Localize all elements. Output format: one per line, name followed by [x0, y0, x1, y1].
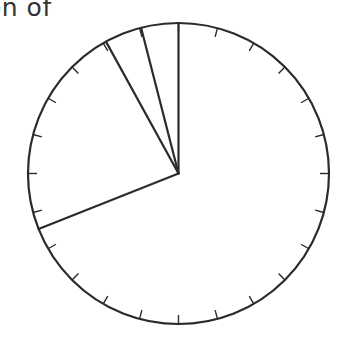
tick-mark — [140, 310, 142, 319]
slice-boundary — [39, 174, 179, 229]
tick-mark — [249, 296, 254, 304]
pie-chart — [0, 0, 340, 340]
tick-mark — [279, 274, 285, 280]
slice-boundary — [106, 42, 179, 174]
tick-mark — [72, 67, 78, 73]
pie-slices — [39, 23, 179, 229]
tick-mark — [72, 274, 78, 280]
tick-mark — [279, 67, 285, 73]
slice-boundary — [141, 28, 178, 174]
tick-mark — [315, 135, 324, 137]
tick-mark — [249, 43, 254, 51]
tick-mark — [33, 210, 42, 212]
tick-mark — [315, 210, 324, 212]
tick-mark — [215, 28, 217, 37]
tick-mark — [48, 98, 56, 103]
tick-mark — [301, 244, 309, 249]
tick-mark — [301, 98, 309, 103]
tick-mark — [33, 135, 42, 137]
tick-mark — [103, 296, 108, 304]
tick-mark — [48, 244, 56, 249]
tick-mark — [215, 310, 217, 319]
